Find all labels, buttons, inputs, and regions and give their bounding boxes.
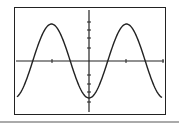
graph-plot — [0, 0, 179, 126]
divider-line — [0, 121, 179, 123]
